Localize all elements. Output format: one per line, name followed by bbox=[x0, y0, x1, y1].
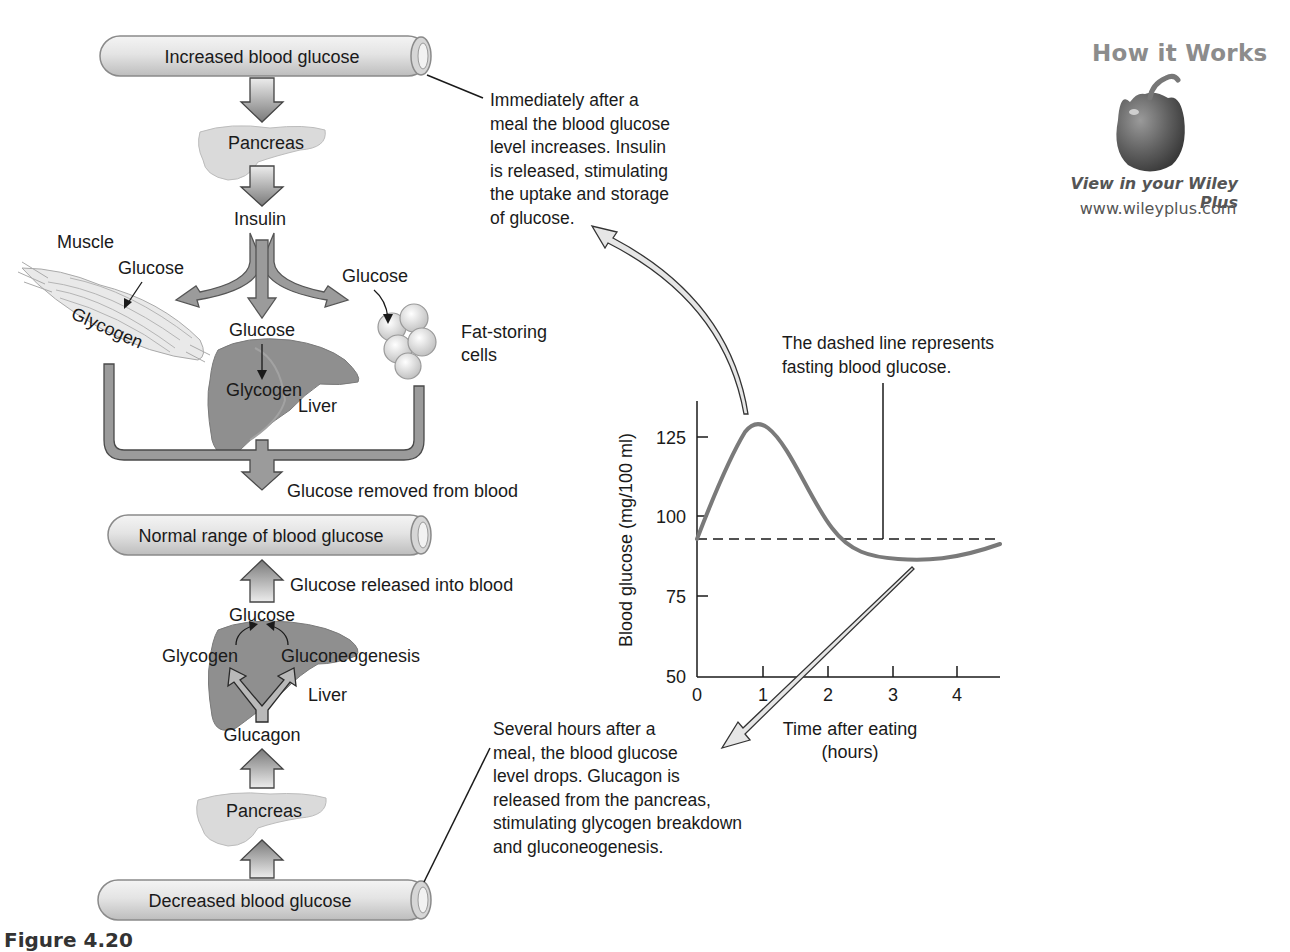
glucose-removed-label: Glucose removed from blood bbox=[287, 481, 518, 501]
liver-bottom-glucose-label: Glucose bbox=[229, 605, 295, 625]
pancreas-bottom-label: Pancreas bbox=[226, 801, 302, 821]
brand-title: How it Works bbox=[1092, 40, 1267, 66]
vessel-decreased-glucose: Decreased blood glucose bbox=[98, 880, 431, 920]
leader-line-bottom bbox=[424, 748, 490, 882]
x-tick-3: 3 bbox=[888, 685, 898, 705]
callout-after-meal: Immediately after a meal the blood gluco… bbox=[490, 89, 670, 230]
pancreas-bottom: Pancreas bbox=[197, 793, 326, 846]
muscle-label: Muscle bbox=[57, 232, 114, 252]
pancreas-top-label: Pancreas bbox=[228, 133, 304, 153]
fat-label-line2: cells bbox=[461, 345, 497, 365]
arrow-down-icon bbox=[241, 78, 283, 122]
vessel-normal-label: Normal range of blood glucose bbox=[138, 526, 383, 546]
y-tick-100: 100 bbox=[656, 507, 686, 527]
liver-bottom-gluconeogenesis-label: Gluconeogenesis bbox=[281, 646, 420, 666]
figure-caption: Figure 4.20 bbox=[4, 928, 133, 952]
arrow-up-icon bbox=[241, 560, 283, 602]
liver-bottom-label: Liver bbox=[308, 685, 347, 705]
liver-label: Liver bbox=[298, 396, 337, 416]
glucagon-label: Glucagon bbox=[223, 725, 300, 745]
x-ticks bbox=[763, 666, 957, 677]
vessel-bottom-label: Decreased blood glucose bbox=[148, 891, 351, 911]
x-axis-label-line2: (hours) bbox=[821, 742, 878, 762]
liver-glycogen-label: Glycogen bbox=[226, 380, 302, 400]
fat-glucose-label: Glucose bbox=[342, 266, 408, 286]
glucose-released-label: Glucose released into blood bbox=[290, 575, 513, 595]
liver-bottom-glycogen-label: Glycogen bbox=[162, 646, 238, 666]
x-tick-1: 1 bbox=[758, 685, 768, 705]
y-tick-125: 125 bbox=[656, 428, 686, 448]
vessel-top-label: Increased blood glucose bbox=[164, 47, 359, 67]
x-axis-label-line1: Time after eating bbox=[783, 719, 917, 739]
callout-dashed-line: The dashed line represents fasting blood… bbox=[782, 332, 994, 379]
brand-url-link[interactable]: www.wileyplus.com bbox=[1064, 199, 1252, 218]
fat-label-line1: Fat-storing bbox=[461, 322, 547, 342]
blood-glucose-chart: 125 100 75 50 0 1 2 3 4 Blood glucose (m… bbox=[616, 383, 1000, 762]
vessel-increased-glucose: Increased blood glucose bbox=[100, 36, 431, 76]
leader-line-top bbox=[427, 75, 483, 98]
insulin-branch-arrows bbox=[176, 233, 348, 318]
peak-callout-arrow-icon bbox=[592, 226, 748, 414]
y-tick-50: 50 bbox=[666, 667, 686, 687]
muscle-glucose-label: Glucose bbox=[118, 258, 184, 278]
x-tick-4: 4 bbox=[952, 685, 962, 705]
arrow-up-icon bbox=[241, 840, 283, 878]
callout-hours-after: Several hours after a meal, the blood gl… bbox=[493, 718, 742, 859]
arrow-up-icon bbox=[241, 749, 283, 788]
x-tick-2: 2 bbox=[823, 685, 833, 705]
pepper-icon bbox=[1116, 76, 1184, 171]
vessel-normal-range: Normal range of blood glucose bbox=[108, 515, 431, 555]
x-tick-0: 0 bbox=[692, 685, 702, 705]
liver-glucose-label: Glucose bbox=[229, 320, 295, 340]
y-axis-label: Blood glucose (mg/100 ml) bbox=[616, 433, 636, 647]
insulin-label: Insulin bbox=[234, 209, 286, 229]
y-tick-75: 75 bbox=[666, 587, 686, 607]
